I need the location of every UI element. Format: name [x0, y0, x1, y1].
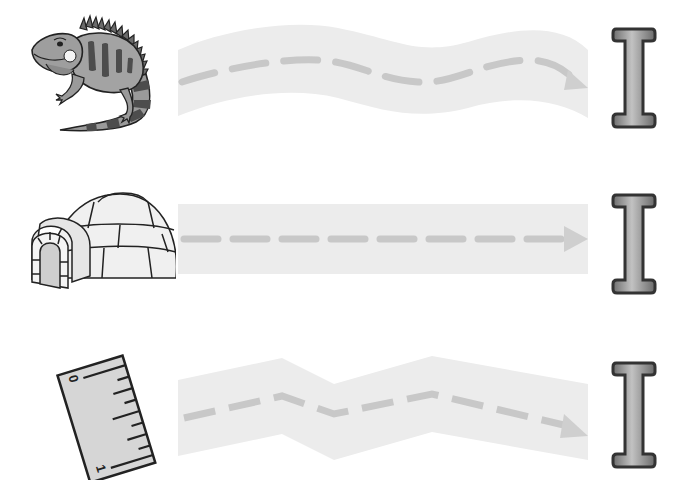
- iguana-picture: iguana: [28, 14, 178, 136]
- letter-i-icon: [610, 360, 658, 470]
- letter-i-target[interactable]: I: [610, 192, 658, 296]
- row-iguana: iguana: [0, 0, 684, 150]
- ruler-picture: ruler 0 1: [50, 350, 160, 480]
- igloo-picture: igloo: [28, 182, 176, 300]
- letter-i-icon: [610, 26, 658, 130]
- straight-tracing-path[interactable]: straight: [178, 200, 588, 278]
- zigzag-tracing-path[interactable]: zigzag: [178, 356, 588, 460]
- wavy-tracing-path[interactable]: wavy: [178, 20, 588, 120]
- iguana-icon: [28, 14, 178, 136]
- row-ruler: ruler 0 1 zigzag: [0, 340, 684, 490]
- igloo-icon: [28, 182, 176, 300]
- letter-i-target[interactable]: I: [610, 26, 658, 130]
- letter-i-target[interactable]: I: [610, 360, 658, 470]
- ruler-icon: 0 1: [50, 350, 160, 480]
- letter-i-icon: [610, 192, 658, 296]
- row-igloo: igloo straight I: [0, 170, 684, 310]
